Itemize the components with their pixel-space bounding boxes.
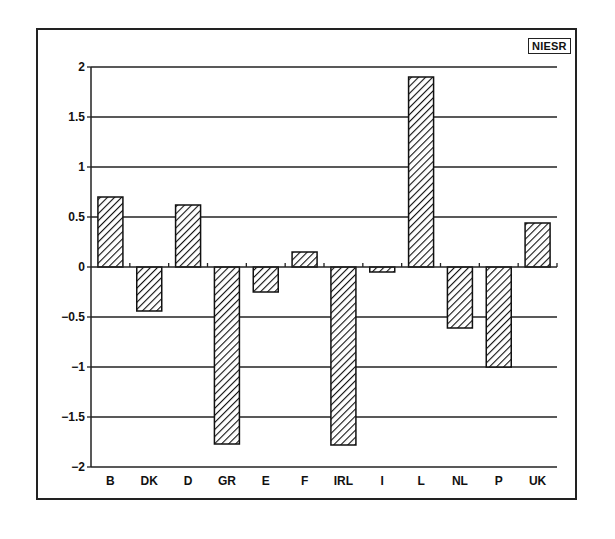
x-tick-label: UK (529, 474, 547, 488)
y-tick-label: 1 (78, 160, 85, 174)
y-tick-label: −2 (71, 460, 85, 474)
x-tick-label: NL (452, 474, 468, 488)
x-tick-label: I (381, 474, 384, 488)
bar-irl (331, 267, 356, 445)
x-tick-label: IRL (334, 474, 353, 488)
bar-gr (214, 267, 239, 444)
bar-dk (137, 267, 162, 311)
x-tick-label: E (262, 474, 270, 488)
x-tick-label: L (417, 474, 424, 488)
bars (98, 77, 550, 445)
x-tick-label: D (184, 474, 193, 488)
y-tick-label: 0 (78, 260, 85, 274)
y-tick-label: −1 (71, 360, 85, 374)
bar-uk (525, 223, 550, 267)
bar-e (253, 267, 278, 292)
x-tick-label: GR (218, 474, 236, 488)
bar-d (176, 205, 201, 267)
y-tick-label: 0.5 (68, 210, 85, 224)
y-tick-label: −1.5 (61, 410, 85, 424)
x-tick-label: B (106, 474, 115, 488)
x-axis-labels: BDKDGREFIRLILNLPUK (106, 474, 546, 488)
y-tick-label: 2 (78, 60, 85, 74)
x-tick-label: DK (141, 474, 159, 488)
bar-f (292, 252, 317, 267)
axes (87, 67, 557, 467)
bar-chart: 21.510.50−0.5−1−1.5−2 BDKDGREFIRLILNLPUK (0, 0, 615, 539)
bar-nl (447, 267, 472, 328)
y-tick-label: 1.5 (68, 110, 85, 124)
x-tick-label: F (301, 474, 308, 488)
y-tick-label: −0.5 (61, 310, 85, 324)
bar-l (409, 77, 434, 267)
bar-p (486, 267, 511, 367)
bar-b (98, 197, 123, 267)
y-axis-labels: 21.510.50−0.5−1−1.5−2 (61, 60, 85, 474)
x-tick-label: P (495, 474, 503, 488)
